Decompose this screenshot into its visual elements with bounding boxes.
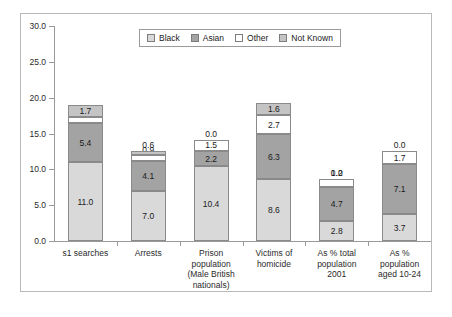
y-axis-tick-label: 30.0 <box>29 21 46 31</box>
bar-segment-value-label: 0.0 <box>205 130 217 139</box>
bar-segment-other[interactable]: 2.7 <box>256 115 291 134</box>
x-axis-tick <box>368 241 369 246</box>
x-axis-category-label: Arrests <box>117 248 180 259</box>
x-axis-category-label: As %populationaged 10-24 <box>368 248 431 280</box>
x-axis-category-label-line: s1 searches <box>54 248 117 259</box>
y-axis-tick <box>49 205 54 206</box>
plot-area: 0.05.010.015.020.025.030.0 11.05.40.91.7… <box>54 26 431 241</box>
bar-stack[interactable]: 2.84.71.20.0 <box>319 26 354 241</box>
y-axis-tick <box>49 26 54 27</box>
y-axis-tick-label: 20.0 <box>29 93 46 103</box>
bar-segment-other[interactable]: 1.7 <box>382 151 417 163</box>
x-axis-category-label-line: As % total <box>305 248 368 259</box>
bar-segment-not-known[interactable] <box>131 151 166 155</box>
y-axis-tick <box>49 98 54 99</box>
x-axis-category-label-line: Victims of <box>243 248 306 259</box>
bar-segment-other[interactable]: 1.5 <box>194 140 229 151</box>
x-axis-category-label: As % totalpopulation2001 <box>305 248 368 280</box>
bar-segment-asian[interactable]: 7.1 <box>382 164 417 215</box>
x-axis-category-label: s1 searches <box>54 248 117 259</box>
y-axis-tick-label: 25.0 <box>29 57 46 67</box>
x-axis-category-label-line: nationals) <box>180 280 243 291</box>
y-axis-tick <box>49 169 54 170</box>
bar-segment-other[interactable] <box>131 155 166 161</box>
x-axis-tick <box>243 241 244 246</box>
x-axis-tick <box>180 241 181 246</box>
bar-segment-black[interactable]: 10.4 <box>194 166 229 241</box>
x-axis-category-label: Prisonpopulation(Male Britishnationals) <box>180 248 243 290</box>
bar-segment-value-label: 0.6 <box>142 141 154 150</box>
x-axis-category-label-line: Arrests <box>117 248 180 259</box>
bar-segment-black[interactable]: 11.0 <box>68 162 103 241</box>
bar-segment-value-label: 0.0 <box>331 169 343 178</box>
bar-segment-asian[interactable]: 4.1 <box>131 161 166 190</box>
bar-segment-not-known[interactable]: 1.6 <box>256 103 291 114</box>
x-axis-category-label-line: As % <box>368 248 431 259</box>
y-axis-tick-label: 10.0 <box>29 164 46 174</box>
bar-stack[interactable]: 10.42.21.50.0 <box>194 26 229 241</box>
bar-segment-black[interactable]: 3.7 <box>382 214 417 241</box>
bar-segment-asian[interactable]: 6.3 <box>256 134 291 179</box>
y-axis-tick <box>49 241 54 242</box>
bar-segment-other[interactable] <box>319 179 354 188</box>
x-axis-category-label-line: population <box>180 259 243 270</box>
bar-segment-black[interactable]: 2.8 <box>319 221 354 241</box>
x-axis-tick <box>305 241 306 246</box>
bar-segment-black[interactable]: 8.6 <box>256 179 291 241</box>
bar-segment-black[interactable]: 7.0 <box>131 191 166 241</box>
x-axis-category-label: Victims ofhomicide <box>243 248 306 269</box>
x-axis-category-label-line: (Male British <box>180 269 243 280</box>
bar-stack[interactable]: 3.77.11.70.0 <box>382 26 417 241</box>
bar-stack[interactable]: 7.04.10.90.6 <box>131 26 166 241</box>
y-axis-tick <box>49 134 54 135</box>
y-axis-tick <box>49 62 54 63</box>
bar-segment-asian[interactable]: 4.7 <box>319 187 354 221</box>
bar-segment-not-known[interactable]: 1.7 <box>68 105 103 117</box>
bar-segment-value-label: 0.0 <box>394 141 406 150</box>
x-axis-category-label-line: population <box>368 259 431 270</box>
x-axis-category-label-line: aged 10-24 <box>368 269 431 280</box>
y-axis-line <box>54 26 55 241</box>
chart-frame: BlackAsianOtherNot Known 0.05.010.015.02… <box>20 13 432 292</box>
bar-segment-asian[interactable]: 5.4 <box>68 123 103 162</box>
x-axis-category-label-line: homicide <box>243 259 306 270</box>
bar-stack[interactable]: 11.05.40.91.7 <box>68 26 103 241</box>
x-axis-category-label-line: population <box>305 259 368 270</box>
x-axis-category-label-line: 2001 <box>305 269 368 280</box>
y-axis-tick-label: 5.0 <box>34 200 46 210</box>
x-axis-category-label-line: Prison <box>180 248 243 259</box>
y-axis-tick-label: 0.0 <box>34 236 46 246</box>
bar-segment-other[interactable] <box>68 117 103 123</box>
y-axis-tick-label: 15.0 <box>29 129 46 139</box>
bar-segment-asian[interactable]: 2.2 <box>194 151 229 167</box>
bar-stack[interactable]: 8.66.32.71.6 <box>256 26 291 241</box>
x-axis-tick <box>117 241 118 246</box>
